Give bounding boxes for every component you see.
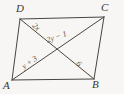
vertex-label-c: C [101, 2, 108, 13]
vertex-label-a: A [3, 80, 10, 91]
side-BA [12, 79, 94, 80]
vertex-label-b: B [92, 79, 99, 90]
figure-canvas [0, 0, 124, 94]
geometry-figure: D C B A 2x 2y − 1 y + 3 6 [0, 0, 124, 94]
side-DC [20, 17, 104, 19]
side-CB [94, 17, 104, 79]
diagonals [12, 17, 104, 80]
vertex-label-d: D [16, 3, 24, 14]
side-AD [12, 19, 20, 80]
diagonal-AC [12, 17, 104, 80]
